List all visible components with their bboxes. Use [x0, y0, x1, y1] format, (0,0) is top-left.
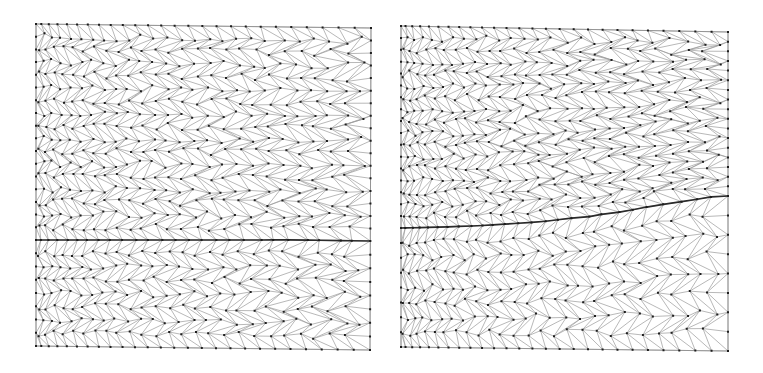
- figure-root: [0, 0, 763, 373]
- mesh-panel-right: [0, 0, 763, 373]
- mesh-panel-right-svg: [0, 0, 763, 373]
- mesh-edges: [401, 26, 728, 351]
